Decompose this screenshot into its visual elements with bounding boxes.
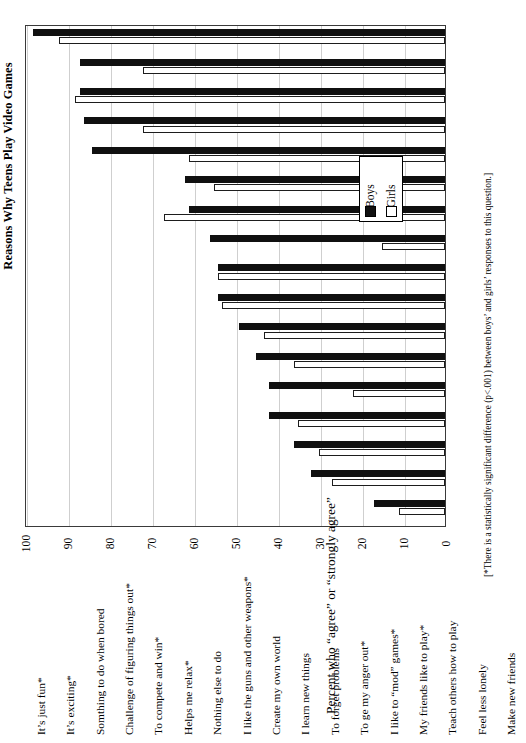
axis-tick-20: 20 [356, 531, 369, 557]
bar-group [26, 320, 445, 349]
legend-entry-girls: Girls [381, 157, 403, 223]
bar-boys [80, 88, 445, 95]
category-label: It’s just fun* [35, 677, 48, 735]
bar-boys [239, 323, 445, 330]
chart-title: Reasons Why Teens Play Video Games [0, 61, 16, 271]
bar-boys [92, 147, 445, 154]
category-label: I like to “mod” games* [388, 629, 401, 735]
bar-group [26, 350, 445, 379]
category-label: It’s exciting* [64, 675, 77, 735]
bar-group [26, 291, 445, 320]
bar-group [26, 85, 445, 114]
bar-group [26, 26, 445, 55]
bar-girls [264, 332, 445, 339]
bar-boys [185, 176, 445, 183]
bar-boys [269, 382, 445, 389]
bar-boys [256, 353, 445, 360]
axis-tick-50: 50 [230, 531, 243, 557]
bar-girls [143, 67, 445, 74]
bar-girls [319, 449, 445, 456]
bar-girls [59, 37, 445, 44]
bar-girls [382, 243, 445, 250]
category-label: Somthing to do when bored [94, 608, 107, 735]
axis-tick-100: 100 [20, 531, 33, 557]
bar-girls [332, 479, 445, 486]
axis-tick-10: 10 [398, 531, 411, 557]
bar-girls [353, 390, 445, 397]
legend-label-boys: Boys [363, 173, 377, 219]
bar-group [26, 261, 445, 290]
axis-tick-70: 70 [146, 531, 159, 557]
bar-girls [399, 508, 445, 515]
axis-tick-0: 0 [440, 531, 453, 557]
bar-boys [84, 117, 445, 124]
legend-entry-boys: Boys [360, 157, 382, 223]
bar-boys [33, 29, 445, 36]
bar-group [26, 497, 445, 526]
axis-tick-90: 90 [62, 531, 75, 557]
chart-footnote: [*There is a statistically significant d… [481, 158, 495, 592]
plot-area: Boys Girls [25, 25, 446, 527]
bar-girls [222, 302, 445, 309]
category-label: Make new friends [505, 653, 518, 735]
bar-boys [311, 470, 445, 477]
category-label: To compete and win* [152, 637, 165, 735]
bar-group [26, 55, 445, 84]
value-axis-title: Percent who “agree” or “strongly agree” [322, 480, 339, 732]
axis-tick-80: 80 [104, 531, 117, 557]
axis-tick-40: 40 [272, 531, 285, 557]
bar-boys [210, 235, 445, 242]
bar-boys [80, 59, 445, 66]
bar-group [26, 379, 445, 408]
bar-girls [75, 96, 445, 103]
bar-girls [294, 361, 445, 368]
category-label: I learn new things [299, 653, 312, 735]
bar-girls [189, 155, 445, 162]
bar-boys [189, 206, 445, 213]
bar-group [26, 408, 445, 437]
chart-canvas: Reasons Why Teens Play Video Games Boys … [0, 0, 526, 743]
category-label: Nothing else to do [211, 651, 224, 735]
bar-group [26, 438, 445, 467]
bar-girls [214, 184, 445, 191]
bar-boys [269, 412, 445, 419]
axis-tick-60: 60 [188, 531, 201, 557]
category-label: Feel less lonely [476, 664, 489, 735]
bar-boys [294, 441, 445, 448]
bar-boys [374, 500, 445, 507]
category-label: Teach others how to play [446, 621, 459, 735]
category-label: My friends like to play* [417, 625, 430, 735]
bar-boys [218, 294, 445, 301]
bar-group [26, 467, 445, 496]
bar-girls [298, 420, 445, 427]
category-label: Challenge of figuring things out* [123, 583, 136, 735]
category-label: Create my own world [270, 636, 283, 735]
bar-girls [143, 126, 445, 133]
bar-group [26, 114, 445, 143]
chart-legend: Boys Girls [359, 156, 403, 222]
category-label: To ge my anger out* [358, 641, 371, 735]
bar-group [26, 232, 445, 261]
bar-boys [218, 264, 445, 271]
category-label: I like the guns and other weapons* [241, 576, 254, 735]
legend-label-girls: Girls [384, 173, 398, 219]
category-label: Helps me relax* [182, 660, 195, 735]
bar-girls [218, 273, 445, 280]
